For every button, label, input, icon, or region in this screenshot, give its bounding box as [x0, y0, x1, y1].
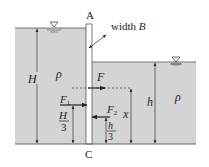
right-density-label: ρ — [174, 90, 181, 104]
point-c-label: C — [85, 148, 92, 160]
svg-text:H: H — [58, 109, 68, 121]
h-label: h — [147, 95, 153, 109]
svg-text:3: 3 — [61, 121, 67, 133]
gate-diagram: A C width B H ρ F F1 H 3 F2 h 3 x h ρ — [0, 0, 209, 167]
left-water-body — [15, 28, 86, 144]
width-label: width B — [111, 20, 146, 32]
point-a-label: A — [86, 9, 94, 21]
svg-text:3: 3 — [108, 131, 113, 142]
resultant-force-label: F — [96, 70, 105, 84]
svg-text:h: h — [108, 120, 113, 131]
right-free-surface-icon — [170, 57, 182, 66]
H-label: H — [27, 72, 38, 86]
left-density-label: ρ — [55, 67, 62, 81]
x-label: x — [122, 107, 129, 121]
gate — [86, 24, 92, 144]
